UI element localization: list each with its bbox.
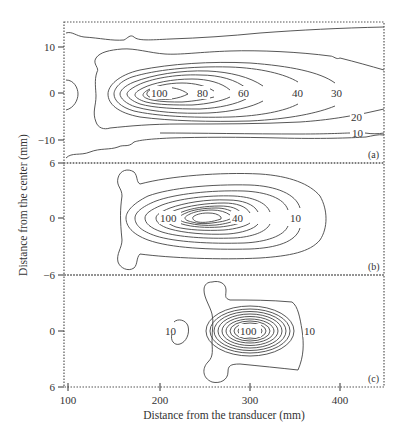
panel-b-label-10: 10 [290,212,302,224]
panel-a-label-60: 60 [238,87,250,99]
panel-c-contours [171,281,303,382]
ytick-a-neg10: −10 [38,134,56,146]
panel-c-label-10-left: 10 [165,325,177,337]
xtick-200: 200 [152,394,169,406]
panel-b-frame [64,163,384,275]
ytick-a-0: 0 [50,87,56,99]
panel-a-label-40: 40 [292,87,304,99]
panel-c-tag: (c) [368,373,379,385]
x-axis-title: Distance from the transducer (mm) [143,409,305,422]
panel-a-tag: (a) [368,149,379,161]
panel-c-frame [64,275,384,387]
xtick-400: 400 [332,394,349,406]
ytick-ab-6: 6 [50,157,56,169]
panel-b-tag: (b) [368,261,380,273]
xtick-300: 300 [242,394,259,406]
contour-figure: 100 80 60 40 30 20 10 100 40 10 10 100 1… [0,0,403,437]
y-axis-ticks: 10 0 −10 6 0 −6 0 6 [38,41,64,393]
panel-a-label-10: 10 [352,127,364,139]
panel-b-label-100: 100 [160,212,177,224]
panel-b-label-40: 40 [232,212,244,224]
ytick-c-6: 6 [50,381,56,393]
panel-a-label-30: 30 [331,87,343,99]
xtick-100: 100 [60,394,77,406]
panel-a-label-100: 100 [151,87,168,99]
panel-a-label-80: 80 [197,87,209,99]
panel-c-label-10-right: 10 [304,325,316,337]
ytick-b-0: 0 [50,212,56,224]
ytick-c-0: 0 [50,325,56,337]
panel-a-label-20: 20 [351,111,363,123]
ytick-bc-neg6: −6 [43,269,55,281]
ytick-a-10: 10 [44,41,56,53]
panel-c-label-100: 100 [240,325,257,337]
panel-tags: (a) (b) (c) [368,149,380,385]
y-axis-title: Distance from the center (mm) [17,134,30,276]
